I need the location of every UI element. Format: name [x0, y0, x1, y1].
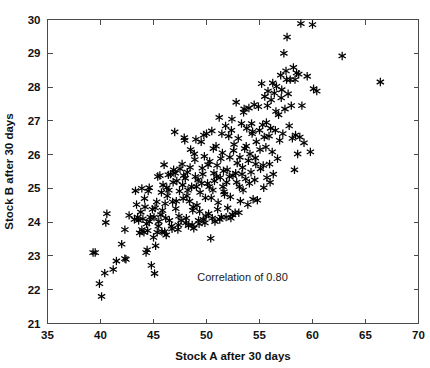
- scatter-point: [304, 72, 311, 80]
- scatter-point: [101, 269, 108, 277]
- scatter-point: [339, 52, 346, 60]
- y-axis-tick-labels: 21222324252627282930: [28, 14, 41, 330]
- scatter-point: [264, 87, 271, 95]
- x-axis-title: Stock A after 30 days: [175, 350, 290, 362]
- chart-canvas: 3540455055606570 21222324252627282930 Co…: [0, 0, 430, 368]
- scatter-point: [298, 101, 305, 109]
- y-tick-label: 27: [28, 115, 41, 127]
- scatter-point: [251, 176, 258, 184]
- scatter-point: [102, 218, 109, 226]
- scatter-point: [300, 139, 307, 147]
- scatter-point: [181, 136, 188, 144]
- scatter-point: [216, 113, 223, 121]
- scatter-point: [260, 184, 267, 192]
- scatter-point: [219, 149, 226, 157]
- scatter-point: [278, 86, 285, 94]
- y-tick-label: 24: [28, 216, 41, 228]
- scatter-point: [244, 200, 251, 208]
- scatter-point: [132, 187, 139, 195]
- scatter-point: [280, 49, 287, 57]
- scatter-point: [153, 198, 160, 206]
- scatter-point: [208, 127, 215, 135]
- scatter-point: [192, 135, 199, 143]
- scatter-chart-figure: 3540455055606570 21222324252627282930 Co…: [0, 0, 430, 368]
- scatter-point: [113, 257, 120, 265]
- scatter-point: [230, 146, 237, 154]
- scatter-point: [288, 101, 295, 109]
- scatter-point: [281, 105, 288, 113]
- scatter-point: [103, 210, 110, 218]
- y-tick-label: 26: [28, 149, 41, 161]
- scatter-point: [274, 154, 281, 162]
- scatter-data-points: [89, 19, 384, 300]
- scatter-point: [294, 150, 301, 158]
- scatter-point: [309, 20, 316, 28]
- scatter-point: [268, 96, 275, 104]
- x-tick-label: 65: [359, 329, 372, 341]
- y-tick-label: 29: [28, 47, 41, 59]
- scatter-point: [202, 194, 209, 202]
- scatter-point: [276, 136, 283, 144]
- scatter-point: [235, 134, 242, 142]
- y-axis-title: Stock B after 30 days: [3, 113, 15, 229]
- scatter-point: [233, 98, 240, 106]
- scatter-point: [141, 203, 148, 211]
- x-axis-tick-labels: 3540455055606570: [41, 329, 425, 341]
- scatter-point: [238, 170, 245, 178]
- scatter-point: [98, 292, 105, 300]
- scatter-point: [297, 19, 304, 27]
- scatter-point: [307, 148, 314, 156]
- scatter-point: [258, 79, 265, 87]
- scatter-point: [278, 94, 285, 102]
- scatter-point: [191, 150, 198, 158]
- scatter-point: [279, 129, 286, 137]
- scatter-point: [121, 225, 128, 233]
- scatter-point: [133, 200, 140, 208]
- x-tick-label: 55: [253, 329, 266, 341]
- y-tick-label: 30: [28, 14, 41, 26]
- scatter-point: [172, 204, 179, 212]
- scatter-point: [270, 170, 277, 178]
- scatter-point: [151, 269, 158, 277]
- x-tick-label: 60: [306, 329, 319, 341]
- scatter-point: [377, 78, 384, 86]
- scatter-point: [228, 115, 235, 123]
- scatter-point: [138, 184, 145, 192]
- y-tick-label: 28: [28, 81, 41, 93]
- x-tick-label: 70: [412, 329, 425, 341]
- scatter-point: [286, 122, 293, 130]
- scatter-point: [291, 166, 298, 174]
- y-tick-label: 23: [28, 250, 41, 262]
- scatter-point: [171, 128, 178, 136]
- scatter-point: [217, 154, 224, 162]
- correlation-annotation: Correlation of 0.80: [197, 271, 288, 283]
- scatter-point: [197, 188, 204, 196]
- y-tick-label: 21: [28, 318, 41, 330]
- scatter-point: [245, 156, 252, 164]
- scatter-point: [150, 233, 157, 241]
- scatter-point: [152, 242, 159, 250]
- scatter-point: [247, 168, 254, 176]
- scatter-point: [224, 204, 231, 212]
- x-tick-label: 35: [41, 329, 54, 341]
- scatter-point: [253, 138, 260, 146]
- scatter-point: [208, 194, 215, 202]
- chart-annotations: Correlation of 0.80: [197, 271, 288, 283]
- scatter-point: [214, 205, 221, 213]
- scatter-point: [266, 178, 273, 186]
- scatter-point: [284, 90, 291, 98]
- scatter-point: [148, 261, 155, 269]
- x-tick-label: 45: [147, 329, 160, 341]
- scatter-point: [283, 33, 290, 41]
- scatter-point: [176, 187, 183, 195]
- x-tick-label: 40: [94, 329, 107, 341]
- scatter-point: [193, 183, 200, 191]
- scatter-point: [264, 101, 271, 109]
- scatter-point: [164, 192, 171, 200]
- scatter-point: [218, 129, 225, 137]
- scatter-point: [207, 234, 214, 242]
- scatter-point: [237, 197, 244, 205]
- scatter-point: [110, 265, 117, 273]
- x-tick-label: 50: [200, 329, 213, 341]
- scatter-point: [96, 279, 103, 287]
